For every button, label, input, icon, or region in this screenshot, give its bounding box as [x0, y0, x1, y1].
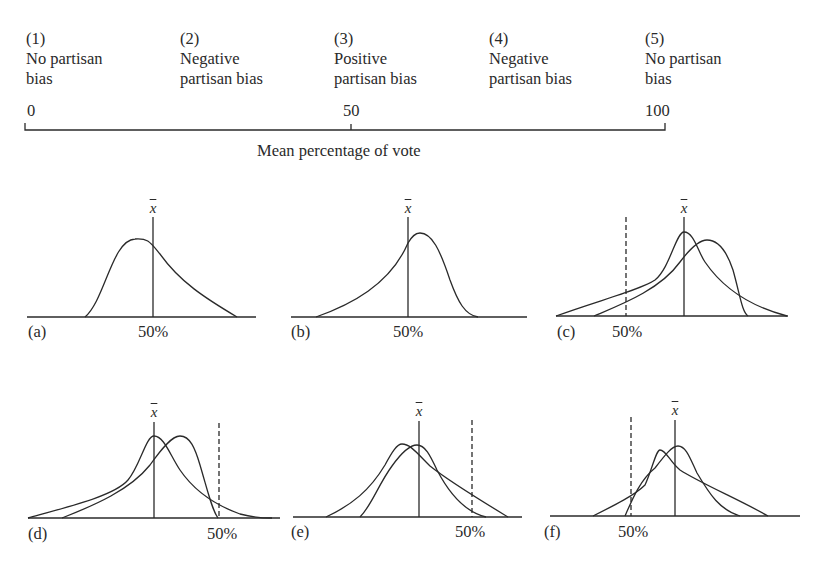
- panel-f-curve-skewed: [593, 450, 768, 516]
- panel-e-lines: [293, 420, 522, 517]
- panel-d-curve-narrow: [28, 436, 272, 518]
- panel-c-curve-narrow: [556, 232, 787, 316]
- panel-d-lines: [28, 422, 280, 518]
- panel-b-50pct-label: 50%: [393, 322, 423, 342]
- panel-f-50pct-label: 50%: [618, 522, 648, 542]
- panel-a-lines: [27, 217, 256, 317]
- panel-d-50pct-label: 50%: [207, 524, 237, 544]
- panel-b-curve: [316, 233, 478, 317]
- scale-axis: [25, 123, 665, 130]
- panel-d-curve-wide: [62, 436, 218, 518]
- panel-e-curve-skewed: [326, 444, 508, 517]
- panel-d-mean-symbol: x: [151, 405, 158, 419]
- panel-b-lines: [291, 217, 527, 317]
- panel-a-curve: [85, 239, 237, 317]
- panel-a-50pct-label: 50%: [138, 322, 168, 342]
- panel-c-label: (c): [557, 322, 575, 342]
- panel-b-label: (b): [291, 322, 310, 342]
- diagram-lineart: [0, 0, 822, 561]
- panel-e-50pct-label: 50%: [455, 522, 485, 542]
- panel-f-lines: [550, 417, 800, 516]
- panel-e-curve-symmetric: [360, 445, 486, 517]
- panel-e-label: (e): [291, 522, 309, 542]
- panel-c-mean-symbol: x: [681, 201, 688, 215]
- panel-d-label: (d): [28, 524, 47, 544]
- panel-c-50pct-label: 50%: [612, 322, 642, 342]
- panel-c-curve-wide: [594, 240, 748, 316]
- panel-c-lines: [556, 217, 788, 316]
- panel-f-mean-symbol: x: [672, 403, 679, 417]
- panel-a-label: (a): [28, 322, 46, 342]
- panel-f-curve-symmetric: [625, 446, 740, 516]
- panel-b-mean-symbol: x: [405, 201, 412, 215]
- panel-e-mean-symbol: x: [416, 404, 423, 418]
- panel-a-mean-symbol: x: [150, 201, 157, 215]
- panel-f-label: (f): [544, 522, 560, 542]
